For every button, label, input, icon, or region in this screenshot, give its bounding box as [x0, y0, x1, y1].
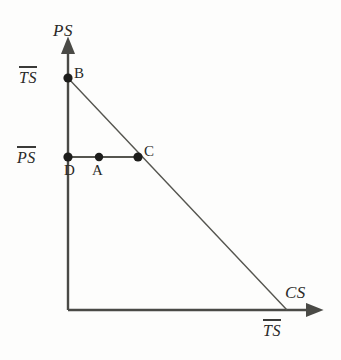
economics-diagram-figure: PS CS TS PS TS B D A C: [0, 0, 341, 360]
overline-bar: [17, 146, 36, 148]
cs-axis-label: CS: [285, 284, 306, 301]
point-B-marker: [63, 73, 72, 82]
point-A-marker: [95, 153, 103, 161]
overline-bar: [19, 66, 37, 68]
overline-bar: [263, 319, 281, 321]
point-D-marker: [63, 152, 72, 161]
point-C-label: C: [144, 144, 154, 159]
point-A-label: A: [92, 163, 103, 178]
ps-axis-label: PS: [53, 22, 73, 39]
x-axis-ts-bar-tick-label: TS: [263, 319, 281, 339]
diagram-canvas: [0, 0, 341, 360]
point-C-marker: [133, 152, 142, 161]
point-D-label: D: [64, 163, 75, 178]
budget-frontier-line: [68, 78, 287, 310]
y-axis-ps-bar-tick-label: PS: [17, 146, 36, 166]
point-B-label: B: [74, 66, 84, 81]
y-axis-ts-bar-tick-label: TS: [19, 66, 37, 86]
